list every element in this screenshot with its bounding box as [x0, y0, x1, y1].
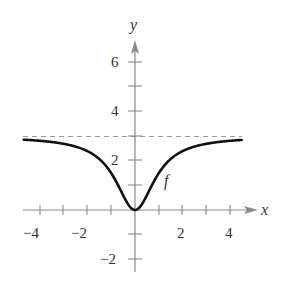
curve-f [24, 140, 242, 210]
curve-label-f: f [164, 172, 171, 190]
x-tick-label: 2 [177, 225, 185, 241]
function-graph: x y −4 −2 2 4 6 4 2 −2 f [0, 0, 282, 288]
y-tick-label: 2 [111, 152, 119, 168]
y-tick-label: 4 [111, 103, 119, 119]
y-tick-label: −2 [100, 251, 116, 267]
y-tick-label: 6 [111, 54, 119, 70]
x-axis-label: x [260, 201, 268, 218]
y-axis-label: y [128, 16, 138, 34]
x-tick-label: −2 [71, 225, 87, 241]
x-tick-label: 4 [225, 225, 233, 241]
x-tick-label: −4 [23, 225, 39, 241]
